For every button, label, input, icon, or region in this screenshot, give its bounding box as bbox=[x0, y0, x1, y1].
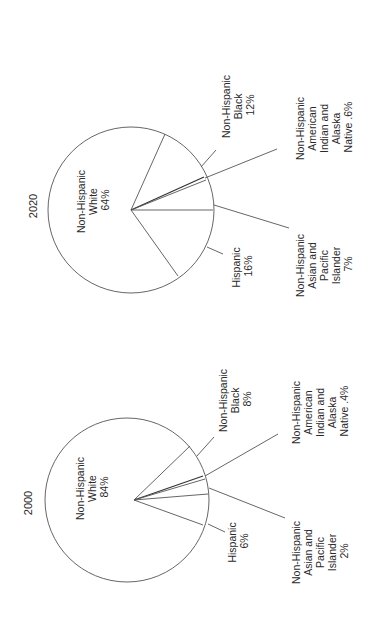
pie-2020-leader-aian bbox=[205, 149, 277, 178]
pie-2000-leader-hispanic bbox=[208, 524, 225, 532]
pie-2020-leader-black bbox=[201, 150, 216, 167]
pie-2000-leader-api bbox=[209, 488, 285, 518]
pie-2020-label-aian: Non-Hispanic American Indian and Alaska … bbox=[294, 94, 354, 160]
pie-2020-label-hispanic: Hispanic 16% bbox=[230, 244, 254, 287]
pie-chart-2000: 2000 Non-Hispanic White 84% Non-Hispanic… bbox=[22, 366, 350, 584]
pie-2020-leader-api bbox=[214, 205, 289, 228]
pie-2020-label-api: Non-Hispanic Asian and Pacific Islander … bbox=[294, 231, 354, 297]
pie-2000-label-api: Non-Hispanic Asian and Pacific Islander … bbox=[290, 518, 350, 584]
pie-2000-leader-aian bbox=[205, 434, 278, 476]
pie-outline-2000 bbox=[45, 418, 209, 582]
pie-2020-label-black: Non-Hispanic Black 12% bbox=[220, 72, 256, 138]
pie-2000-label-aian: Non-Hispanic American Indian and Alaska … bbox=[290, 378, 350, 444]
pie-chart-2020: 2020 Non-Hispanic White 64% Non-Hispanic… bbox=[27, 72, 354, 297]
chart-title-2020: 2020 bbox=[27, 194, 39, 218]
pie-2020-leader-hispanic bbox=[207, 247, 223, 254]
chart-title-2000: 2000 bbox=[22, 491, 34, 515]
pie-charts-svg: 2020 Non-Hispanic White 64% Non-Hispanic… bbox=[0, 0, 373, 632]
chart-figure: 2020 Non-Hispanic White 64% Non-Hispanic… bbox=[0, 0, 373, 632]
pie-2000-leader-black bbox=[197, 437, 214, 456]
pie-2000-label-hispanic: Hispanic 6% bbox=[226, 519, 250, 562]
pie-2000-label-black: Non-Hispanic Black 8% bbox=[217, 366, 253, 432]
